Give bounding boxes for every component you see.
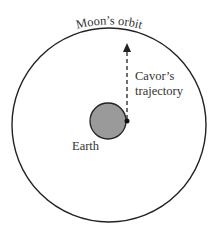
earth-label: Earth (72, 139, 100, 153)
earth-circle (90, 103, 126, 139)
trajectory-label-line1: Cavor’s (135, 69, 174, 83)
orbit-label: Moon’s orbit (74, 13, 144, 31)
orbit-diagram: Moon’s orbit Cavor’s trajectory Earth (0, 0, 217, 234)
launch-point (125, 119, 130, 124)
trajectory-label-line2: trajectory (135, 84, 184, 98)
arrowhead-icon (123, 43, 131, 52)
